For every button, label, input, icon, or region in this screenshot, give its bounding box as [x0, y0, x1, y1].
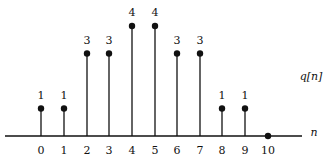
y-axis-label: q[n]: [300, 71, 323, 82]
stem-marker: [242, 105, 248, 111]
x-axis-label: n: [310, 127, 317, 138]
value-label: 4: [152, 7, 159, 18]
stem-marker: [174, 50, 180, 56]
value-label: 1: [38, 90, 45, 101]
value-label: 3: [106, 35, 113, 46]
x-tick-label: 2: [84, 145, 91, 155]
x-tick-label: 3: [106, 145, 113, 155]
stem-marker: [265, 133, 271, 139]
x-tick-label: 0: [38, 145, 45, 155]
stem-marker: [84, 50, 90, 56]
value-label: 1: [61, 90, 68, 101]
x-tick-label: 6: [174, 145, 181, 155]
x-tick-label: 9: [242, 145, 249, 155]
value-label: 3: [174, 35, 181, 46]
stem-marker: [38, 105, 44, 111]
x-tick-label: 8: [219, 145, 226, 155]
value-label: 1: [219, 90, 226, 101]
value-label: 3: [84, 35, 91, 46]
stem-marker: [219, 105, 225, 111]
stem-marker: [61, 105, 67, 111]
x-tick-label: 4: [129, 145, 136, 155]
x-tick-label: 5: [152, 145, 159, 155]
stem-plot: 1011323344453637181910 q[n] n: [0, 0, 326, 155]
plot-canvas: [0, 0, 326, 155]
x-tick-label: 1: [61, 145, 68, 155]
value-label: 1: [242, 90, 249, 101]
value-label: 4: [129, 7, 136, 18]
stem-marker: [106, 50, 112, 56]
x-tick-label: 7: [197, 145, 204, 155]
stem-marker: [129, 23, 135, 29]
stem-marker: [152, 23, 158, 29]
value-label: 3: [197, 35, 204, 46]
stem-marker: [197, 50, 203, 56]
x-tick-label: 10: [261, 145, 275, 155]
